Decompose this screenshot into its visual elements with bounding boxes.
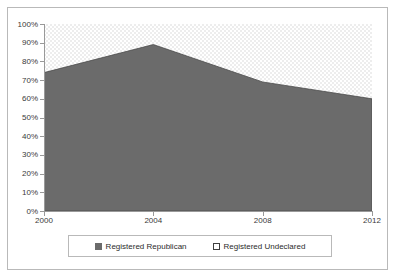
x-axis-label: 2000 — [24, 216, 64, 225]
y-axis-tick — [40, 99, 44, 100]
y-axis-tick — [40, 43, 44, 44]
y-axis-label: 70% — [4, 76, 38, 85]
y-axis-label: 60% — [4, 94, 38, 103]
legend-item-registered-republican[interactable]: Registered Republican — [95, 242, 187, 251]
legend-swatch-filled-icon — [95, 243, 102, 250]
y-axis-tick — [40, 80, 44, 81]
y-axis-label: 100% — [4, 20, 38, 29]
x-axis-label: 2008 — [243, 216, 283, 225]
plot-area — [44, 24, 372, 211]
series-area-registered-republican — [44, 24, 372, 211]
y-axis-label: 10% — [4, 188, 38, 197]
chart-container: 0%10%20%30%40%50%60%70%80%90%100% 200020… — [0, 0, 397, 278]
y-axis-tick — [40, 192, 44, 193]
y-axis-tick — [40, 61, 44, 62]
x-axis-label: 2012 — [352, 216, 392, 225]
y-axis-label: 50% — [4, 113, 38, 122]
chart-legend: Registered Republican Registered Undecla… — [68, 235, 332, 257]
y-axis-label: 20% — [4, 169, 38, 178]
y-axis-label: 30% — [4, 150, 38, 159]
y-axis-tick — [40, 118, 44, 119]
y-axis-tick — [40, 24, 44, 25]
legend-swatch-hollow-icon — [213, 243, 220, 250]
y-axis-label: 40% — [4, 132, 38, 141]
y-axis-tick — [40, 155, 44, 156]
legend-label-registered-republican: Registered Republican — [106, 242, 187, 251]
y-axis-line — [44, 24, 45, 212]
legend-item-registered-undeclared[interactable]: Registered Undeclared — [213, 242, 306, 251]
y-axis-tick — [40, 136, 44, 137]
x-axis-line — [44, 211, 373, 212]
legend-label-registered-undeclared: Registered Undeclared — [224, 242, 306, 251]
y-axis-tick — [40, 174, 44, 175]
y-axis-label: 80% — [4, 57, 38, 66]
y-axis-label: 0% — [4, 207, 38, 216]
x-axis-label: 2004 — [133, 216, 173, 225]
y-axis-label: 90% — [4, 38, 38, 47]
